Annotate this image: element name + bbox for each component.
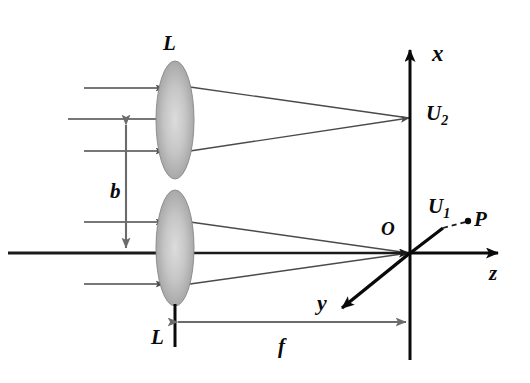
lens-lower: [156, 190, 194, 306]
optics-diagram-figure: L L b f x z y O P U1 U2: [0, 0, 530, 383]
label-axis-z: z: [489, 263, 497, 284]
label-origin-o: O: [381, 219, 395, 238]
converging-ray-u2-upper: [190, 87, 409, 118]
label-lens-upper: L: [163, 33, 176, 54]
label-focal-length-f: f: [278, 336, 285, 357]
label-axis-y: y: [317, 292, 327, 314]
label-field-u2-sub: 2: [441, 113, 448, 128]
label-field-u1-sub: 1: [443, 206, 450, 221]
point-p-marker: [465, 218, 471, 224]
label-field-u1: U1: [428, 196, 450, 221]
converging-ray-origin-upper: [190, 222, 409, 253]
label-lens-lower: L: [151, 327, 164, 348]
lens-upper: [156, 61, 194, 179]
label-field-u2-main: U: [426, 101, 441, 125]
incoming-rays-upper-lens: [68, 88, 164, 151]
converging-ray-u2-lower: [190, 118, 409, 151]
label-axis-x: x: [432, 42, 444, 65]
label-point-p: P: [474, 209, 487, 230]
u1-to-p-dashed-connector: [443, 222, 466, 228]
converging-rays-to-u2: [190, 87, 409, 151]
label-field-u1-main: U: [428, 194, 443, 218]
label-separation-b: b: [110, 181, 121, 202]
u1-ray-segment: [409, 228, 443, 254]
label-field-u2: U2: [426, 103, 448, 128]
diagram-canvas: [0, 0, 530, 383]
